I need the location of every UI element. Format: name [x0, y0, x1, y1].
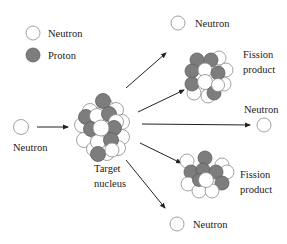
- neutron-icon: [257, 118, 271, 132]
- legend-proton-label: Proton: [48, 50, 77, 61]
- bottom-fission-product: Fission product: [180, 151, 272, 198]
- arrow-bottom-neutron: [126, 160, 165, 208]
- right-neutron-label: Neutron: [244, 104, 279, 115]
- top-fission-label-line1: Fission: [243, 49, 274, 60]
- arrow-top-fission: [138, 90, 184, 112]
- incoming-neutron: Neutron: [13, 120, 48, 154]
- top-neutron: Neutron: [171, 16, 230, 30]
- legend: Neutron Proton: [26, 26, 83, 62]
- bottom-fission-label-line2: product: [240, 184, 272, 195]
- top-neutron-label: Neutron: [195, 18, 230, 29]
- right-neutron: Neutron: [244, 104, 279, 132]
- arrow-bottom-fission: [140, 143, 181, 163]
- legend-neutron-label: Neutron: [48, 28, 83, 39]
- bottom-neutron: Neutron: [170, 217, 228, 231]
- target-label-line2: nucleus: [94, 178, 126, 189]
- top-fission-label-line2: product: [243, 64, 275, 75]
- nuclear-fission-diagram: Neutron Proton Neutron Target nucleus: [0, 0, 287, 244]
- neutron-icon: [171, 16, 185, 30]
- bottom-neutron-label: Neutron: [193, 219, 228, 230]
- neutron-icon: [170, 217, 184, 231]
- incoming-neutron-label: Neutron: [13, 142, 48, 153]
- target-nucleus: Target nucleus: [75, 94, 130, 190]
- top-fission-product: Fission product: [185, 49, 275, 103]
- bottom-fission-label-line1: Fission: [240, 169, 271, 180]
- legend-neutron-icon: [26, 26, 40, 40]
- arrow-right-neutron: [142, 124, 250, 125]
- legend-proton-icon: [26, 48, 40, 62]
- arrow-top-neutron: [126, 53, 166, 88]
- neutron-icon: [14, 120, 29, 135]
- target-label-line1: Target: [94, 163, 121, 174]
